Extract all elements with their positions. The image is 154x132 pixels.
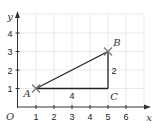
point-a-label: A xyxy=(22,88,30,99)
x-tick-5: 5 xyxy=(105,112,110,122)
x-axis-arrow-icon xyxy=(144,105,151,110)
coordinate-diagram: 1 2 3 4 5 6 1 2 3 4 O x y A B C 4 2 xyxy=(0,0,154,132)
origin-label: O xyxy=(6,111,14,122)
x-tick-6: 6 xyxy=(123,112,128,122)
y-tick-1: 1 xyxy=(7,84,12,94)
x-tick-2: 2 xyxy=(51,112,56,122)
y-tick-2: 2 xyxy=(7,66,12,76)
y-axis-label: y xyxy=(6,11,13,22)
point-b-label: B xyxy=(112,37,120,48)
grid xyxy=(18,14,144,107)
y-tick-3: 3 xyxy=(7,47,12,57)
x-tick-4: 4 xyxy=(87,112,92,122)
y-axis-arrow-icon xyxy=(15,11,20,18)
x-tick-3: 3 xyxy=(69,112,74,122)
y-tick-4: 4 xyxy=(7,29,12,39)
x-tick-1: 1 xyxy=(33,112,38,122)
side-ac-length: 4 xyxy=(69,91,74,101)
x-axis-label: x xyxy=(146,112,152,123)
point-c-label: C xyxy=(110,91,118,102)
side-cb-length: 2 xyxy=(111,66,116,76)
